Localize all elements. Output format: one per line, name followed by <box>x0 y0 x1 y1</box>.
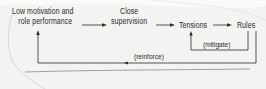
node-tensions: Tensions <box>179 20 207 30</box>
node-close-supervision-line2: supervision <box>111 16 147 26</box>
edge-label-reinforce: (reinforce) <box>134 52 164 61</box>
mitigate-arrowhead <box>189 31 192 36</box>
node-low-motivation-line2: role performance <box>12 16 74 26</box>
node-tensions-line1: Tensions <box>179 20 207 30</box>
node-close-supervision-line1: Close <box>111 6 147 16</box>
node-low-motivation: Low motivation and role performance <box>12 6 74 26</box>
node-close-supervision: Close supervision <box>111 6 147 26</box>
reinforce-arrowhead <box>36 30 39 35</box>
node-rules: Rules <box>237 20 255 30</box>
paper-fold-line <box>25 69 250 72</box>
edge-label-mitigate: (mitigate) <box>203 40 230 49</box>
node-rules-line1: Rules <box>237 20 255 30</box>
reinforce-mid-arrow <box>124 62 128 65</box>
node-low-motivation-line1: Low motivation and <box>12 6 74 16</box>
